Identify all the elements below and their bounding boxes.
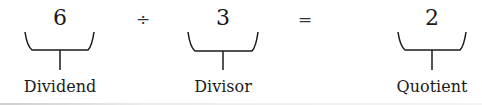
quotient-value: 2 [412, 6, 452, 30]
quotient-bracket [398, 32, 466, 70]
divisor-label: Divisor [168, 77, 278, 97]
dividend-bracket [25, 32, 94, 70]
dividend-label: Dividend [5, 77, 115, 97]
divisor-value: 3 [203, 6, 243, 30]
bottom-divider [0, 103, 482, 105]
quotient-label: Quotient [377, 77, 482, 97]
equals-sign: = [290, 9, 320, 29]
divide-sign: ÷ [128, 9, 158, 29]
dividend-value: 6 [40, 6, 80, 30]
divisor-bracket [188, 32, 258, 70]
